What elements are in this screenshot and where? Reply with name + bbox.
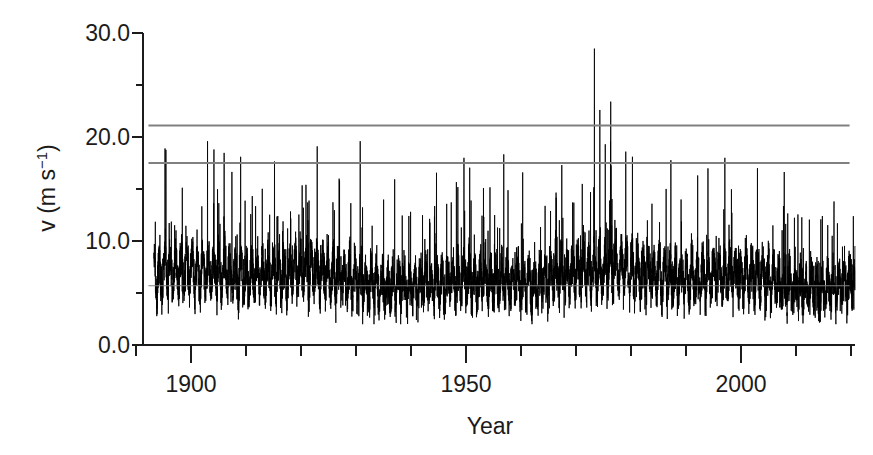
y-tick-label-20: 20.0 [85,124,130,150]
y-axis-title-main: v (m s [34,169,60,232]
x-axis-ticks [136,345,851,363]
x-axis-tick-labels: 1900 1950 2000 [165,371,766,397]
x-tick-label-2000: 2000 [715,371,766,397]
y-axis-title-close: ) [34,144,60,152]
y-tick-label-10: 10.0 [85,228,130,254]
wind-speed-trace [154,49,855,325]
x-tick-label-1900: 1900 [165,371,216,397]
wind-speed-chart: 30.0 20.0 10.0 0.0 v (m s−1) [0,0,873,455]
y-axis-title-exponent: −1 [33,152,50,169]
data-series-layer [154,49,855,325]
y-axis-tick-labels: 30.0 20.0 10.0 0.0 [85,20,130,358]
chart-figure: 30.0 20.0 10.0 0.0 v (m s−1) [0,0,873,455]
x-axis-title: Year [467,413,514,439]
x-tick-label-1950: 1950 [440,371,491,397]
svg-text:v (m s−1): v (m s−1) [33,144,60,231]
y-axis-ticks [132,33,143,345]
y-tick-label-0: 0.0 [98,332,130,358]
y-axis-title: v (m s−1) [33,144,60,231]
y-tick-label-30: 30.0 [85,20,130,46]
